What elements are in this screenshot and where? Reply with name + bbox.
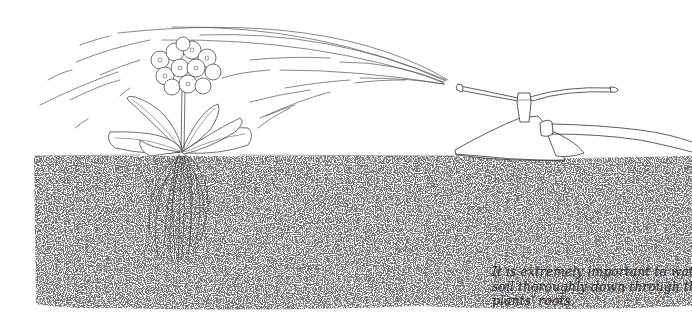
sprinkler-arm (459, 86, 518, 101)
sprinkler (455, 84, 618, 161)
caption-line-2: soil thoroughly down through the (492, 280, 692, 295)
caption-line-1: It is extremely important to water the (492, 265, 692, 280)
caption-line-3: plants' roots. (492, 294, 692, 309)
plant (108, 37, 251, 156)
hose-coupling (540, 120, 553, 136)
water-spray (40, 27, 448, 128)
sprinkler-head (517, 93, 531, 122)
caption: It is extremely important to water the s… (492, 265, 692, 309)
sprinkler-arm (530, 88, 612, 101)
flower-cluster (151, 37, 221, 95)
